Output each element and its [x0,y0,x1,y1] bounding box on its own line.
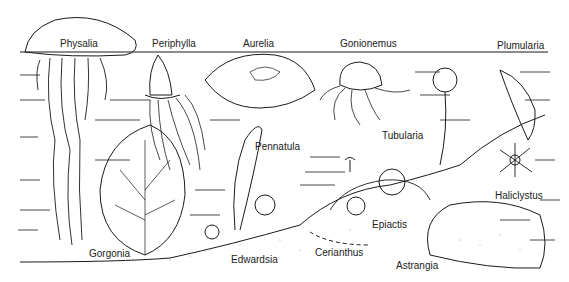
label-edwardsia: Edwardsia [231,255,278,265]
tubularia-head [433,68,457,92]
label-gorgonia: Gorgonia [89,249,130,259]
astrangia-rock [428,202,546,269]
plumularia-frond [500,70,535,140]
label-cerianthus: Cerianthus [315,248,363,258]
label-gonionemus: Gonionemus [340,39,397,49]
periphylla-bell [150,55,172,95]
label-physalia: Physalia [60,39,98,49]
label-pennatula: Pennatula [255,142,300,152]
label-epiactis: Epiactis [372,220,407,230]
label-astrangia: Astrangia [396,261,438,271]
label-haliclystus: Haliclystus [495,191,543,201]
seafloor-line [20,115,545,262]
epiactis-small [347,197,365,215]
physalia-float [25,18,136,57]
label-tubularia: Tubularia [382,131,423,141]
label-periphylla: Periphylla [152,39,196,49]
gonionemus-bell [340,62,382,90]
cerianthus-tube [310,232,370,245]
gorgonia-fan [100,125,185,255]
cnidarian-illustration: Physalia Periphylla Aurelia Gonionemus P… [0,0,569,282]
rock-mound [330,180,430,210]
label-plumularia: Plumularia [497,41,544,51]
edwardsia-anemone [255,195,275,215]
label-aurelia: Aurelia [243,39,274,49]
aurelia-bell [205,54,315,108]
